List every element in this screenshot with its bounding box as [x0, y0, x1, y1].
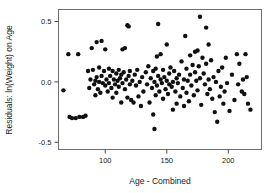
- data-point: [237, 62, 241, 66]
- data-point: [243, 52, 247, 56]
- data-point: [131, 100, 135, 104]
- data-point: [123, 87, 127, 91]
- data-point: [161, 97, 165, 101]
- data-point: [66, 52, 70, 56]
- x-tick-label: 100: [99, 156, 112, 165]
- data-point: [211, 75, 215, 79]
- data-point: [215, 120, 219, 124]
- data-point: [195, 48, 199, 52]
- data-point: [106, 89, 110, 93]
- data-point: [241, 77, 245, 81]
- x-axis-tick-marks: [105, 150, 228, 154]
- data-point: [208, 87, 212, 91]
- data-point: [147, 100, 151, 104]
- data-point: [152, 80, 156, 84]
- data-point: [94, 75, 98, 79]
- data-point: [187, 99, 191, 103]
- data-point: [177, 72, 181, 76]
- data-point: [217, 94, 221, 98]
- data-point: [171, 80, 175, 84]
- data-point: [150, 86, 154, 90]
- data-point: [213, 110, 217, 114]
- data-point: [206, 77, 210, 81]
- data-point: [120, 81, 124, 85]
- data-point: [96, 87, 100, 91]
- data-point: [98, 91, 102, 95]
- data-point: [224, 56, 228, 60]
- data-point: [161, 68, 165, 72]
- data-point: [210, 97, 214, 101]
- data-point: [103, 47, 107, 51]
- data-point: [176, 81, 180, 85]
- data-point: [151, 112, 155, 116]
- data-point: [109, 86, 113, 90]
- data-point: [108, 74, 112, 78]
- data-point: [198, 15, 202, 19]
- data-point: [219, 85, 223, 89]
- data-point: [153, 93, 157, 97]
- data-point: [189, 83, 193, 87]
- data-point: [158, 52, 162, 56]
- y-axis-tick-marks: [55, 22, 59, 143]
- data-point: [197, 64, 201, 68]
- y-tick-label: 0.5: [41, 17, 51, 26]
- data-point: [179, 59, 183, 63]
- data-point: [166, 92, 170, 96]
- scatter-plot-figure: 100150200 0.50.0-0.5 Age - Combined Resi…: [0, 0, 274, 193]
- data-point: [126, 24, 130, 28]
- data-point: [145, 82, 149, 86]
- data-point: [149, 76, 153, 80]
- data-point: [214, 80, 218, 84]
- data-point: [128, 82, 132, 86]
- data-point: [123, 46, 127, 50]
- data-point: [200, 56, 204, 60]
- data-point: [162, 75, 166, 79]
- data-point: [144, 70, 148, 74]
- data-point: [61, 88, 65, 92]
- data-point: [155, 54, 159, 58]
- data-points-layer: [61, 15, 252, 132]
- data-point: [119, 100, 123, 104]
- data-point: [124, 77, 128, 81]
- data-point: [122, 70, 126, 74]
- data-point: [225, 81, 229, 85]
- data-point: [156, 22, 160, 26]
- data-point: [222, 89, 226, 93]
- data-point: [182, 104, 186, 108]
- data-point: [236, 82, 240, 86]
- data-point: [114, 71, 118, 75]
- data-point: [140, 75, 144, 79]
- data-point: [230, 72, 234, 76]
- data-point: [188, 53, 192, 57]
- data-point: [168, 65, 172, 69]
- x-axis-tick-labels: 100150200: [99, 156, 235, 165]
- data-point: [76, 52, 80, 56]
- data-point: [185, 79, 189, 83]
- data-point: [97, 65, 101, 69]
- data-point: [227, 109, 231, 113]
- data-point: [242, 92, 246, 96]
- data-point: [246, 101, 250, 105]
- data-point: [126, 74, 130, 78]
- data-point: [103, 83, 107, 87]
- y-axis-tick-labels: 0.50.0-0.5: [39, 17, 52, 147]
- data-point: [117, 85, 121, 89]
- data-point: [90, 46, 94, 50]
- data-point: [192, 93, 196, 97]
- data-point: [110, 69, 114, 73]
- data-point: [204, 62, 208, 66]
- data-point: [195, 88, 199, 92]
- data-point: [232, 98, 236, 102]
- data-point: [99, 74, 103, 78]
- data-point: [125, 95, 129, 99]
- data-point: [163, 87, 167, 91]
- data-point: [190, 63, 194, 67]
- y-tick-label: -0.5: [39, 138, 52, 147]
- data-point: [199, 103, 203, 107]
- data-point: [183, 34, 187, 38]
- data-point: [88, 77, 92, 81]
- data-point: [102, 69, 106, 73]
- data-point: [221, 101, 225, 105]
- data-point: [83, 114, 87, 118]
- data-point: [205, 92, 209, 96]
